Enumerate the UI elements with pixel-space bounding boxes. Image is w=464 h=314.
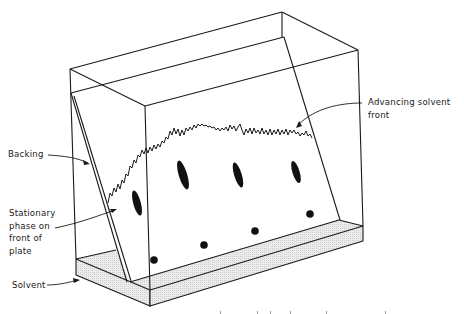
solvent-tray (76, 220, 363, 306)
label-stationary-phase: Stationary phase on front of plate (9, 207, 55, 257)
label-advancing-solvent-front: Advancing solvent front (368, 96, 450, 121)
tlc-plate (71, 37, 340, 220)
developed-spots (130, 159, 303, 216)
label-backing: Backing (8, 148, 44, 161)
tlc-tank-diagram (0, 0, 464, 314)
solvent-front-line (108, 124, 312, 203)
label-solvent: Solvent (12, 279, 46, 292)
